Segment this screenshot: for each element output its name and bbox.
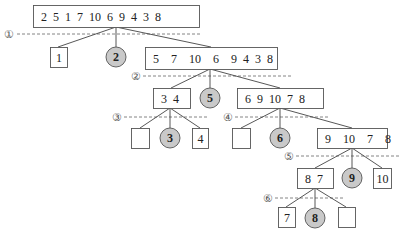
level-label: ④ bbox=[223, 111, 233, 123]
box-values: 4 bbox=[198, 132, 204, 146]
level-separator: ③ bbox=[112, 111, 208, 123]
box-frame bbox=[233, 129, 251, 149]
array-box: 7 bbox=[279, 208, 296, 228]
level-label: ⑥ bbox=[263, 192, 273, 204]
tree-nodes: 2 5 1 7 10 6 9 4 3 8125 7 10 6 9 4 3 83 … bbox=[34, 6, 392, 229]
array-box: 1 bbox=[51, 48, 68, 68]
tree-edge bbox=[116, 27, 211, 47]
level-label: ③ bbox=[112, 111, 122, 123]
array-box: 10 bbox=[374, 169, 392, 189]
pivot-node: 3 bbox=[160, 128, 180, 148]
box-values: 2 5 1 7 10 6 9 4 3 8 bbox=[41, 10, 161, 24]
pivot-value: 5 bbox=[207, 91, 213, 105]
box-values: 8 7 bbox=[305, 172, 323, 186]
box-values: 5 7 10 6 9 4 3 8 bbox=[153, 52, 273, 66]
level-label: ② bbox=[131, 70, 141, 82]
tree-edge bbox=[210, 69, 280, 88]
pivot-node: 2 bbox=[106, 47, 126, 67]
pivot-value: 3 bbox=[167, 131, 173, 145]
pivot-node: 8 bbox=[305, 208, 325, 228]
box-values: 9 10 7 8 bbox=[325, 132, 391, 146]
tree-edge bbox=[352, 148, 382, 168]
pivot-node: 9 bbox=[342, 168, 362, 188]
box-values: 1 bbox=[56, 51, 62, 65]
box-frame bbox=[339, 208, 356, 228]
array-box: 4 bbox=[193, 129, 209, 149]
array-box: 5 7 10 6 9 4 3 8 bbox=[146, 48, 278, 70]
tree-edge bbox=[315, 188, 346, 207]
array-box: 9 10 7 8 bbox=[318, 129, 392, 149]
level-separator: ② bbox=[131, 70, 292, 82]
tree-edge bbox=[286, 188, 315, 207]
array-box: 8 7 bbox=[298, 169, 334, 189]
quicksort-partition-tree: ①②③④⑤⑥ 2 5 1 7 10 6 9 4 3 8125 7 10 6 9 … bbox=[0, 0, 400, 239]
pivot-value: 8 bbox=[312, 211, 318, 225]
tree-edge bbox=[171, 69, 210, 88]
box-frame bbox=[132, 129, 150, 149]
pivot-value: 9 bbox=[349, 171, 355, 185]
box-values: 6 9 10 7 8 bbox=[245, 92, 305, 106]
diagram-canvas: ①②③④⑤⑥ 2 5 1 7 10 6 9 4 3 8125 7 10 6 9 … bbox=[0, 0, 400, 239]
empty-box bbox=[233, 129, 251, 149]
pivot-node: 5 bbox=[200, 88, 220, 108]
box-values: 7 bbox=[284, 211, 290, 225]
level-separator: ⑤ bbox=[284, 150, 400, 162]
pivot-node: 6 bbox=[270, 128, 290, 148]
empty-box bbox=[339, 208, 356, 228]
tree-edge bbox=[170, 108, 200, 128]
tree-edge bbox=[315, 148, 352, 168]
tree-edge bbox=[140, 108, 170, 128]
pivot-value: 2 bbox=[113, 50, 119, 64]
box-values: 3 4 bbox=[161, 92, 179, 106]
array-box: 3 4 bbox=[154, 89, 191, 109]
tree-edge bbox=[241, 108, 280, 128]
tree-edge bbox=[58, 27, 116, 47]
array-box: 6 9 10 7 8 bbox=[238, 89, 324, 109]
tree-edge bbox=[280, 108, 352, 128]
box-values: 10 bbox=[377, 172, 389, 186]
empty-box bbox=[132, 129, 150, 149]
pivot-value: 6 bbox=[277, 131, 283, 145]
array-box: 2 5 1 7 10 6 9 4 3 8 bbox=[34, 6, 200, 28]
level-label: ⑤ bbox=[284, 150, 294, 162]
level-label: ① bbox=[4, 28, 14, 40]
